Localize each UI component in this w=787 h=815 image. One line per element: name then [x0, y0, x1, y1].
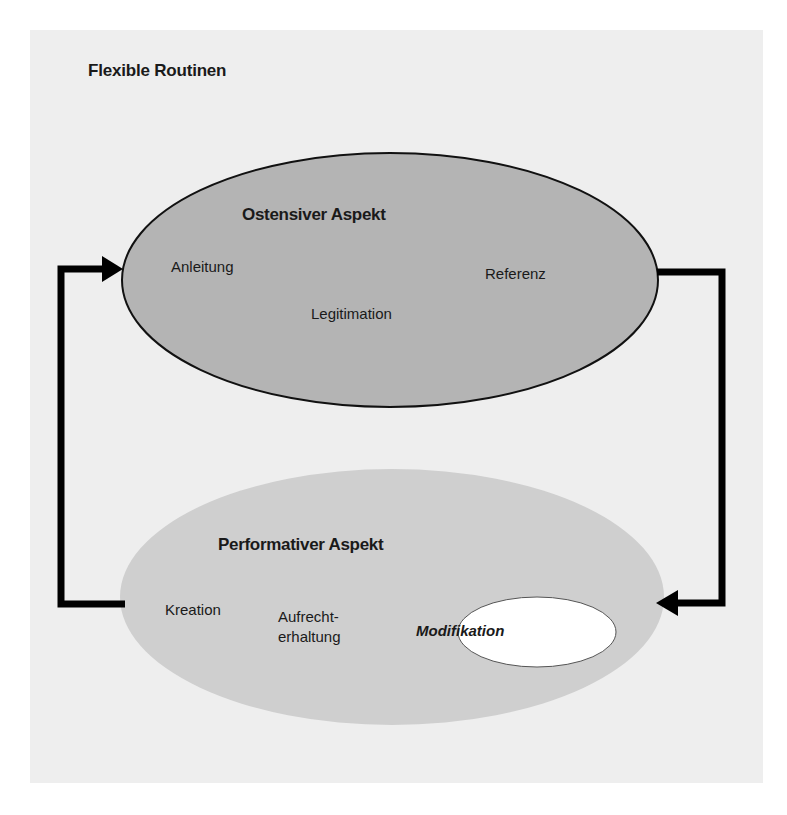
arrowhead-right-icon	[102, 256, 123, 282]
ostensive-item-referenz: Referenz	[485, 264, 546, 284]
right-feedback-arrow	[656, 272, 722, 616]
performative-item-kreation: Kreation	[165, 600, 221, 620]
ostensive-item-legitimation: Legitimation	[311, 304, 392, 324]
ostensive-ellipse	[122, 153, 658, 407]
performative-heading: Performativer Aspekt	[218, 535, 383, 555]
performative-ellipse	[120, 469, 664, 725]
modifikation-label: Modifikation	[416, 621, 504, 641]
diagram-canvas	[0, 0, 787, 815]
left-feedback-arrow	[61, 256, 125, 604]
ostensive-heading: Ostensiver Aspekt	[242, 205, 386, 225]
ostensive-item-anleitung: Anleitung	[171, 257, 234, 277]
performative-item-aufrechterhaltung-line2: erhaltung	[278, 627, 341, 647]
performative-item-aufrechterhaltung-line1: Aufrecht-	[278, 607, 339, 627]
